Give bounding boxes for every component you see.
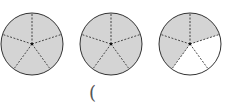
fraction-circles [0,0,237,112]
answer-blank: ( [89,84,96,102]
fraction-circle-2 [80,13,142,75]
fraction-circle-3 [159,13,221,75]
fraction-circle-1 [1,13,63,75]
